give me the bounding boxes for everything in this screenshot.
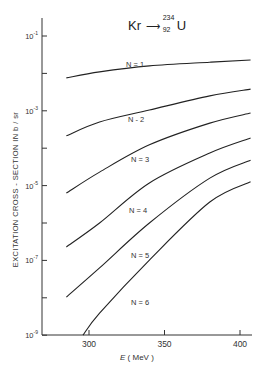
curve-label-n3: N = 3 <box>131 155 149 164</box>
y-tick-label: 10-7 <box>16 254 38 265</box>
title-projectile: Kr <box>128 18 141 33</box>
title-target: U <box>177 18 186 33</box>
chart-canvas <box>0 0 266 369</box>
x-tick-label: 400 <box>225 339 255 349</box>
mass-number: 234 <box>163 14 175 21</box>
x-tick-label: 350 <box>150 339 180 349</box>
y-tick-label: 10-5 <box>16 180 38 191</box>
curve-n5 <box>66 160 250 297</box>
curve-n2 <box>66 89 250 136</box>
curve-label-n1: N = 1 <box>126 60 144 69</box>
curve-n1 <box>66 60 250 78</box>
x-axis-unit: ( MeV ) <box>128 353 154 362</box>
x-axis-label: E ( MeV ) <box>120 353 154 362</box>
curve-label-n5: N = 5 <box>131 251 149 260</box>
curve-n4 <box>66 138 250 247</box>
curve-n6 <box>83 182 251 335</box>
curve-label-n2: N - 2 <box>128 115 144 124</box>
y-tick-label: 10-1 <box>16 30 38 41</box>
x-axis-symbol: E <box>120 353 125 362</box>
chart-title: Kr ⟶23492U <box>128 18 186 33</box>
y-tick-label: 10-9 <box>16 329 38 340</box>
axes <box>42 18 252 335</box>
curve-label-n4: N = 4 <box>129 206 147 215</box>
y-tick-label: 10-3 <box>16 105 38 116</box>
curve-n3 <box>66 113 250 193</box>
x-tick-label: 300 <box>74 339 104 349</box>
curve-label-n6: N = 6 <box>131 298 149 307</box>
arrow-icon: ⟶ <box>146 21 160 32</box>
isotope-notation: 23492 <box>163 18 177 32</box>
curves <box>66 60 250 335</box>
atomic-number: 92 <box>163 26 171 33</box>
axis-ticks <box>42 36 240 335</box>
